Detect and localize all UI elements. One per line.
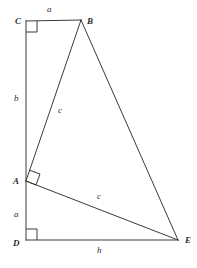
- vertex-label-e: E: [185, 236, 191, 245]
- segment-ab: [26, 20, 81, 181]
- vertex-label-a: A: [13, 177, 19, 186]
- vertex-label-b: B: [87, 17, 93, 26]
- segment-be: [81, 20, 178, 240]
- vertex-label-d: D: [13, 239, 20, 248]
- label-a-top: a: [47, 5, 52, 14]
- label-c-ab: c: [58, 106, 62, 115]
- segments-group: [26, 20, 178, 240]
- right-angle-mark-c: [26, 21, 37, 32]
- vertex-label-c: C: [15, 17, 21, 26]
- segment-cb: [26, 20, 81, 21]
- label-h-bottom: h: [97, 246, 102, 255]
- right-angle-mark-d: [26, 229, 37, 240]
- geometry-canvas: [0, 0, 197, 268]
- label-b-left: b: [14, 94, 19, 103]
- label-a-lower: a: [14, 210, 19, 219]
- right-angle-marks-group: [26, 21, 40, 240]
- label-c-ae: c: [97, 192, 101, 201]
- geometry-diagram: CBADE abcach: [0, 0, 197, 268]
- segment-ae: [26, 181, 178, 240]
- right-angle-mark-a: [26, 170, 40, 185]
